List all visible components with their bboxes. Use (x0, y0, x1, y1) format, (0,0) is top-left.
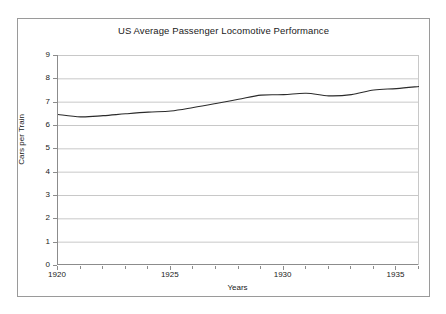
x-axis-tick-mark (57, 266, 58, 270)
x-axis-tick-label: 1930 (263, 271, 303, 279)
x-axis-tick-label: 1920 (37, 271, 77, 279)
x-axis-tick-label: 1935 (375, 271, 415, 279)
x-axis-tick-mark (418, 266, 419, 269)
y-axis-tick-label: 9 (28, 51, 50, 59)
x-axis-tick-mark (238, 266, 239, 269)
x-axis-tick-mark (350, 266, 351, 269)
y-axis-tick-label: 7 (28, 98, 50, 106)
x-axis-tick-mark (260, 266, 261, 269)
y-axis-tick-label: 0 (28, 261, 50, 269)
y-axis-label: Cars per Train (17, 95, 26, 185)
y-axis-tick-label: 8 (28, 74, 50, 82)
x-axis-tick-mark (328, 266, 329, 269)
y-axis-tick-label: 6 (28, 121, 50, 129)
x-axis-tick-mark (215, 266, 216, 269)
y-axis-tick-label: 4 (28, 168, 50, 176)
plot-svg (58, 55, 419, 265)
x-axis-tick-mark (283, 266, 284, 270)
y-axis-tick-label: 3 (28, 191, 50, 199)
plot-area (57, 55, 418, 265)
x-axis-tick-mark (395, 266, 396, 270)
x-axis-label: Years (57, 283, 418, 292)
y-axis-tick-label: 2 (28, 214, 50, 222)
gridlines (58, 55, 419, 265)
x-axis-tick-mark (305, 266, 306, 269)
x-axis-tick-mark (373, 266, 374, 269)
x-axis-tick-mark (125, 266, 126, 269)
x-axis-tick-mark (80, 266, 81, 269)
x-axis-tick-mark (170, 266, 171, 270)
chart-figure: US Average Passenger Locomotive Performa… (0, 0, 446, 314)
x-axis-tick-mark (192, 266, 193, 269)
chart-title: US Average Passenger Locomotive Performa… (17, 25, 430, 36)
x-axis-tick-label: 1925 (150, 271, 190, 279)
y-axis-tick-label: 5 (28, 144, 50, 152)
x-axis-tick-mark (147, 266, 148, 269)
x-axis-tick-mark (102, 266, 103, 269)
y-axis-tick-label: 1 (28, 238, 50, 246)
